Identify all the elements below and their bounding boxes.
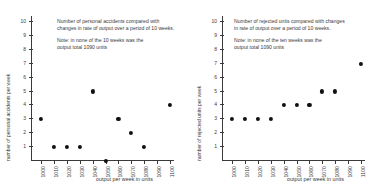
y-axis-tick: 5 <box>220 91 224 92</box>
data-point <box>142 145 146 149</box>
chart-panel-rejected-units: Number of rejected units compared with c… <box>191 0 381 193</box>
plot-area: 1234567891010001010102010301040105010601… <box>222 16 365 161</box>
x-axis-tick: 1090 <box>348 160 349 164</box>
y-axis-line <box>222 16 223 161</box>
x-axis-tick-label: 1040 <box>284 166 289 178</box>
data-point <box>320 89 324 93</box>
x-axis-tick-label: 1000 <box>232 166 237 178</box>
x-axis-tick: 1070 <box>322 160 323 164</box>
data-point <box>52 145 56 149</box>
y-axis-tick: 6 <box>220 77 224 78</box>
y-axis-tick: 8 <box>220 49 224 50</box>
data-point <box>359 62 363 66</box>
y-axis-tick-label: 2 <box>214 130 217 135</box>
y-axis-tick-label: 6 <box>214 75 217 80</box>
y-axis-tick: 7 <box>220 63 224 64</box>
y-axis-tick-label: 4 <box>214 102 217 107</box>
x-axis-tick-label: 1070 <box>131 166 136 178</box>
data-point <box>333 89 337 93</box>
y-axis-label: number of rejected units per week <box>196 16 202 161</box>
y-axis-tick: 10 <box>220 21 224 22</box>
y-axis-tick-label: 5 <box>23 89 26 94</box>
data-point <box>230 117 234 121</box>
x-axis-tick-label: 1060 <box>309 166 314 178</box>
x-axis-tick-label: 1010 <box>245 166 250 178</box>
y-axis-tick-label: 10 <box>20 19 26 24</box>
data-point <box>269 117 273 121</box>
x-axis-tick: 1100 <box>361 160 362 164</box>
x-axis-tick-label: 1030 <box>80 166 85 178</box>
y-axis-tick-label: 1 <box>214 144 217 149</box>
y-axis-tick-label: 8 <box>23 47 26 52</box>
data-point <box>91 89 95 93</box>
data-point <box>129 131 133 135</box>
data-point <box>243 117 247 121</box>
y-axis-tick: 10 <box>29 21 33 22</box>
y-axis-tick-label: 7 <box>23 61 26 66</box>
x-axis-tick: 1050 <box>297 160 298 164</box>
x-axis-tick: 1040 <box>93 160 94 164</box>
y-axis-tick: 9 <box>29 35 33 36</box>
y-axis-tick-label: 4 <box>23 102 26 107</box>
x-axis-tick: 1060 <box>309 160 310 164</box>
y-axis-tick-label: 1 <box>23 144 26 149</box>
y-axis-tick: 2 <box>29 132 33 133</box>
x-axis-tick-label: 1020 <box>258 166 263 178</box>
y-axis-tick-label: 9 <box>23 33 26 38</box>
data-point <box>116 117 120 121</box>
y-axis-tick-label: 10 <box>211 19 217 24</box>
y-axis-tick: 1 <box>29 146 33 147</box>
y-axis-tick-label: 2 <box>23 130 26 135</box>
y-axis-tick-label: 7 <box>214 61 217 66</box>
chart-panel-personal-accidents: Number of personal accidents compared wi… <box>0 0 190 193</box>
x-axis-tick-label: 1080 <box>335 166 340 178</box>
x-axis-tick: 1020 <box>258 160 259 164</box>
y-axis-tick-label: 9 <box>214 33 217 38</box>
y-axis-tick: 9 <box>220 35 224 36</box>
data-point <box>103 159 107 163</box>
x-axis-tick-label: 1030 <box>271 166 276 178</box>
data-point <box>282 103 286 107</box>
data-point <box>78 145 82 149</box>
x-axis-tick: 1030 <box>271 160 272 164</box>
x-axis-tick: 1080 <box>144 160 145 164</box>
plot-area: 1234567891010001010102010301040105010601… <box>31 16 174 161</box>
y-axis-label: number of personal accidents per week <box>5 16 11 161</box>
x-axis-tick: 1010 <box>54 160 55 164</box>
data-point <box>256 117 260 121</box>
x-axis-tick: 1090 <box>157 160 158 164</box>
x-axis-tick: 1010 <box>245 160 246 164</box>
data-point <box>65 145 69 149</box>
x-axis-tick-label: 1050 <box>106 166 111 178</box>
x-axis-tick-label: 1050 <box>297 166 302 178</box>
y-axis-tick-label: 8 <box>214 47 217 52</box>
x-axis-tick-label: 1090 <box>157 166 162 178</box>
data-point <box>294 103 298 107</box>
x-axis-tick-label: 1000 <box>41 166 46 178</box>
x-axis-tick: 1070 <box>131 160 132 164</box>
y-axis-tick: 7 <box>29 63 33 64</box>
x-axis-tick-label: 1090 <box>348 166 353 178</box>
y-axis-tick: 5 <box>29 91 33 92</box>
x-axis-tick-label: 1080 <box>144 166 149 178</box>
data-point <box>168 103 172 107</box>
x-axis-tick-label: 1100 <box>170 166 175 177</box>
x-axis-tick-label: 1040 <box>93 166 98 178</box>
y-axis-tick-label: 5 <box>214 89 217 94</box>
y-axis-tick: 3 <box>29 118 33 119</box>
y-axis-tick: 8 <box>29 49 33 50</box>
x-axis-tick: 1020 <box>67 160 68 164</box>
data-point <box>307 103 311 107</box>
y-axis-line <box>31 16 32 161</box>
x-axis-tick: 1040 <box>284 160 285 164</box>
y-axis-tick: 2 <box>220 132 224 133</box>
x-axis-tick: 1030 <box>80 160 81 164</box>
y-axis-tick-label: 6 <box>23 75 26 80</box>
x-axis-tick-label: 1020 <box>67 166 72 178</box>
data-point <box>39 117 43 121</box>
x-axis-tick-label: 1010 <box>54 166 59 178</box>
y-axis-tick-label: 3 <box>214 116 217 121</box>
x-axis-line <box>222 160 365 161</box>
x-axis-tick: 1080 <box>335 160 336 164</box>
y-axis-tick: 1 <box>220 146 224 147</box>
